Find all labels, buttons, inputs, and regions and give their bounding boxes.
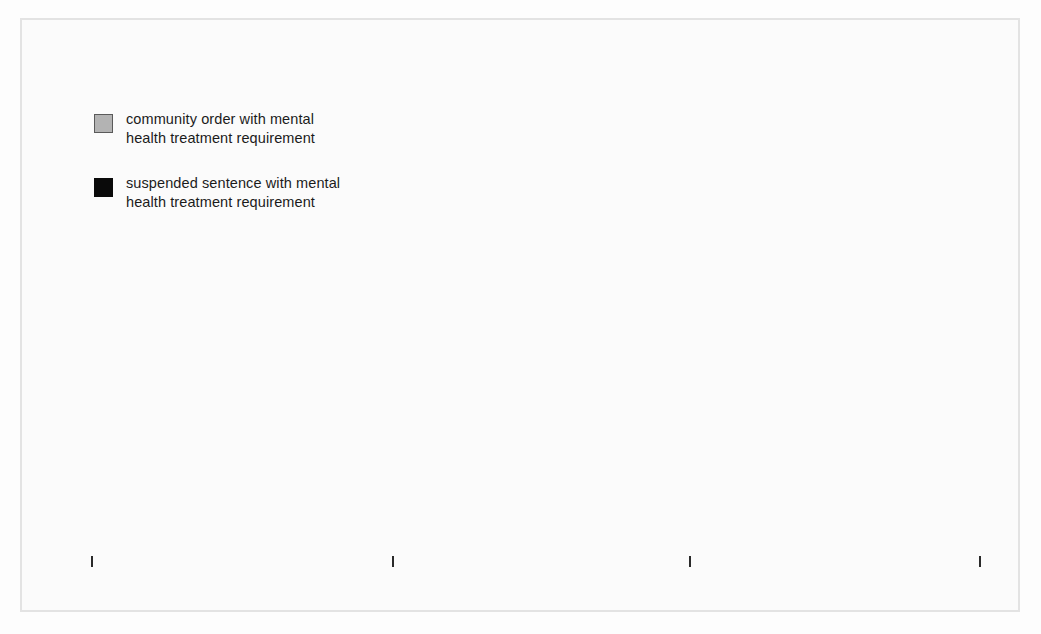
x-axis-tick-1 xyxy=(392,556,394,567)
x-axis-tick-3 xyxy=(979,556,981,567)
plot-area: 262 34 2005 750 177 2006 652 253 xyxy=(0,0,1041,634)
chart-root: community order with mental health treat… xyxy=(0,0,1041,634)
x-axis-tick-0 xyxy=(91,556,93,567)
x-axis-tick-2 xyxy=(689,556,691,567)
